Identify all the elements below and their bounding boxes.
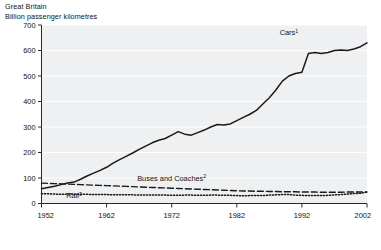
line-chart-plot: 0100200300400500600700 19521962197219821… [0, 0, 381, 250]
svg-text:300: 300 [23, 123, 35, 132]
y-axis-ticks [38, 25, 42, 204]
svg-text:1962: 1962 [98, 211, 114, 220]
chart-figure: Great Britain Billion passenger kilometr… [0, 0, 381, 250]
svg-text:200: 200 [23, 148, 35, 157]
svg-text:0: 0 [31, 199, 35, 208]
svg-text:400: 400 [23, 97, 35, 106]
svg-text:1982: 1982 [229, 211, 245, 220]
svg-text:700: 700 [23, 21, 35, 30]
svg-text:1952: 1952 [38, 211, 54, 220]
svg-text:2002: 2002 [355, 211, 371, 220]
series-label-buses-and-coaches: Buses and Coaches2 [137, 173, 206, 183]
x-axis-tick-labels: 195219621972198219922002 [38, 211, 372, 220]
svg-text:100: 100 [23, 174, 35, 183]
y-axis-tick-labels: 0100200300400500600700 [23, 21, 35, 209]
svg-text:600: 600 [23, 46, 35, 55]
svg-text:500: 500 [23, 72, 35, 81]
svg-text:1972: 1972 [163, 211, 179, 220]
x-axis-ticks [42, 204, 368, 208]
svg-text:1992: 1992 [294, 211, 310, 220]
